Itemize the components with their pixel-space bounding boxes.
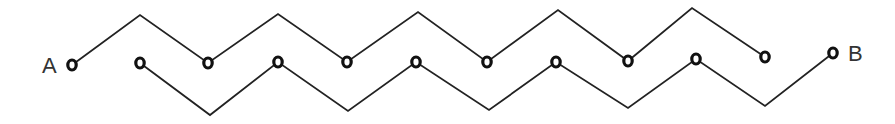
label-a: A — [42, 53, 57, 78]
node-terminal-n2 — [204, 58, 212, 68]
node-terminal-B — [829, 48, 837, 58]
node-terminal-n8 — [624, 56, 632, 66]
node-terminal-n1 — [136, 58, 144, 68]
zigzag-diagram: A B — [0, 0, 895, 124]
node-terminal-n7 — [552, 57, 560, 67]
node-terminal-n4 — [343, 57, 351, 67]
node-terminal-n9 — [692, 54, 700, 64]
node-group — [68, 48, 837, 70]
node-terminal-n5 — [412, 57, 420, 67]
node-terminal-n10 — [761, 52, 769, 62]
node-terminal-A — [68, 60, 76, 70]
node-terminal-n3 — [274, 57, 282, 67]
label-b: B — [848, 41, 863, 66]
node-terminal-n6 — [483, 57, 491, 67]
